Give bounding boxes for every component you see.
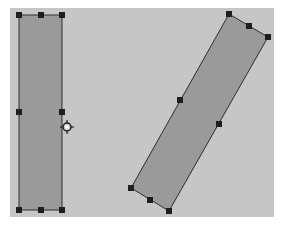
resize-handle[interactable]	[147, 197, 153, 203]
resize-handle[interactable]	[216, 121, 222, 127]
resize-handle[interactable]	[177, 97, 183, 103]
resize-handle[interactable]	[59, 207, 65, 213]
resize-handle[interactable]	[16, 207, 22, 213]
shape-layer[interactable]	[0, 0, 282, 227]
resize-handle[interactable]	[59, 109, 65, 115]
resize-handle[interactable]	[38, 207, 44, 213]
rotated-rectangle[interactable]	[131, 14, 268, 211]
resize-handle[interactable]	[59, 12, 65, 18]
upright-rectangle[interactable]	[19, 15, 62, 210]
resize-handle[interactable]	[265, 34, 271, 40]
resize-handle[interactable]	[166, 208, 172, 214]
resize-handle[interactable]	[16, 109, 22, 115]
resize-handle[interactable]	[226, 11, 232, 17]
resize-handle[interactable]	[128, 185, 134, 191]
resize-handle[interactable]	[246, 23, 252, 29]
resize-handle[interactable]	[38, 12, 44, 18]
resize-handle[interactable]	[16, 12, 22, 18]
